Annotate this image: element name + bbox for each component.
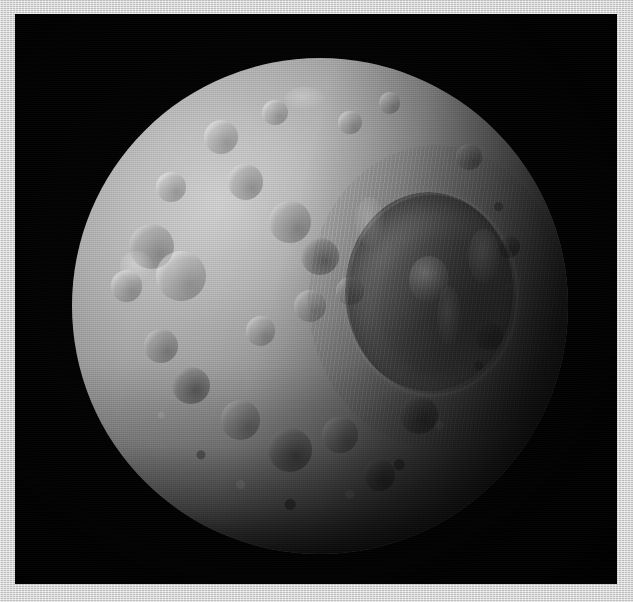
limb-darkening [72, 58, 568, 554]
image-viewport: Heavily cratered icy moon photographed a… [0, 0, 633, 602]
moon-body [72, 58, 568, 554]
photo-plate [15, 14, 617, 584]
